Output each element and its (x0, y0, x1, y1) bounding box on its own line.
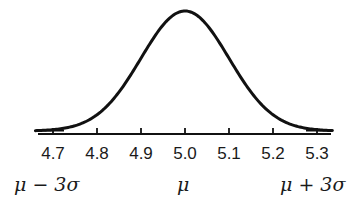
x-tick-label: 5.2 (261, 144, 285, 163)
x-tick-labels: 4.74.84.95.05.15.25.3 (41, 144, 329, 163)
normal-distribution-chart: 4.74.84.95.05.15.25.3 μ − 3σ μ μ + 3σ (0, 0, 359, 199)
mu-plus-3sigma-label: μ + 3σ (280, 173, 346, 195)
x-tick-label: 4.8 (85, 144, 109, 163)
bell-curve (35, 11, 332, 131)
x-tick-label: 5.3 (305, 144, 329, 163)
x-tick-label: 4.7 (41, 144, 65, 163)
mu-minus-3sigma-label: μ − 3σ (14, 173, 80, 195)
x-tick-label: 4.9 (129, 144, 153, 163)
x-tick-label: 5.1 (217, 144, 241, 163)
mu-label: μ (177, 173, 189, 195)
x-tick-label: 5.0 (173, 144, 197, 163)
